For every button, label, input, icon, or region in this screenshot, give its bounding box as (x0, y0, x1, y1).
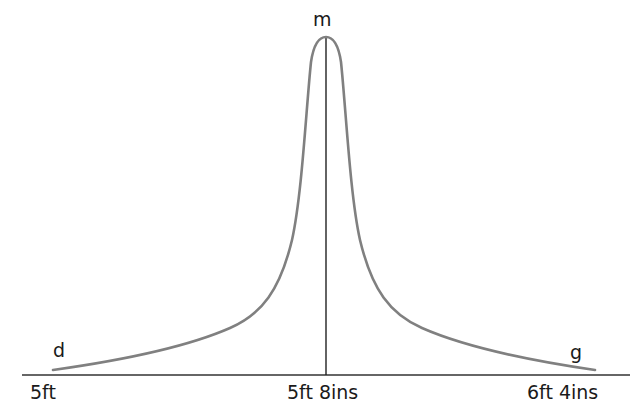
distribution-diagram: m d g 5ft 5ft 8ins 6ft 4ins (0, 0, 630, 420)
distribution-curve (53, 37, 595, 370)
right-tail-label-g: g (570, 343, 582, 362)
left-tail-label-d: d (53, 341, 65, 360)
x-tick-label-5ft: 5ft (30, 383, 56, 402)
x-tick-label-6ft-4ins: 6ft 4ins (527, 383, 598, 402)
x-tick-label-5ft-8ins: 5ft 8ins (287, 383, 358, 402)
peak-label-m: m (313, 10, 332, 29)
diagram-canvas (0, 0, 630, 420)
